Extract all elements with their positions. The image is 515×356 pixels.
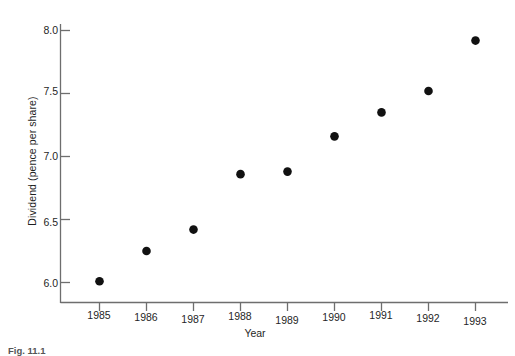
data-point-1991	[377, 108, 386, 117]
y-axis-ticks	[61, 31, 71, 283]
x-axis-ticks	[100, 303, 476, 312]
scatter-plot-figure: Dividend (pence per share) 8.0 7.5 7.0 6…	[0, 0, 515, 356]
data-point-1987	[189, 225, 198, 234]
data-point-1993	[471, 36, 480, 45]
data-point-1985	[95, 277, 104, 286]
data-point-1990	[330, 132, 339, 141]
data-point-1986	[142, 247, 151, 256]
plot-canvas	[0, 0, 515, 356]
data-point-group	[95, 36, 480, 285]
data-point-1992	[424, 87, 433, 96]
data-point-1988	[236, 170, 245, 179]
data-point-1989	[283, 167, 292, 176]
